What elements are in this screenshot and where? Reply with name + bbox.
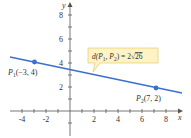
x-tick-label: -4 xyxy=(19,115,26,124)
point-p2 xyxy=(154,86,159,91)
point-p2-label: P2(7, 2) xyxy=(135,94,161,104)
y-axis-label: y xyxy=(61,1,66,10)
x-axis-label: x xyxy=(177,113,182,122)
y-tick-label: 6 xyxy=(59,35,63,44)
y-axis xyxy=(68,6,72,136)
point-p1 xyxy=(32,60,37,65)
x-tick-label: -2 xyxy=(43,115,50,124)
y-tick-label: 8 xyxy=(59,11,63,20)
x-tick-label: 6 xyxy=(140,115,144,124)
point-p1-label: P1(−3, 4) xyxy=(7,68,38,78)
y-tick-label: 2 xyxy=(59,83,63,92)
distance-formula: d(P1, P2) = 2√26 xyxy=(92,52,143,62)
y-axis-arrow-icon xyxy=(68,2,73,7)
x-tick-label: 4 xyxy=(116,115,120,124)
x-tick-label: 2 xyxy=(92,115,96,124)
x-tick-label: 8 xyxy=(164,115,168,124)
coordinate-plane: -4 -2 2 4 6 8 2 4 6 8 x y P1(−3, 4) P2(7… xyxy=(0,0,191,138)
distance-callout: d(P1, P2) = 2√26 xyxy=(88,48,158,72)
x-axis xyxy=(10,109,178,113)
y-tick-label: 4 xyxy=(59,59,63,68)
